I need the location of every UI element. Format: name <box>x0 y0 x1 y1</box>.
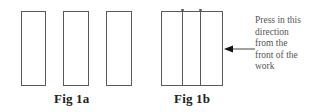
note-line-5: work <box>255 61 325 73</box>
fig1b-seam-1 <box>182 11 183 86</box>
note-line-4: front of the <box>255 50 325 62</box>
press-direction-note: Press in this direction from the front o… <box>255 15 325 73</box>
fig1a-panel-2 <box>63 11 89 86</box>
fig1b-seam-marker-1 <box>181 9 184 11</box>
fig1b-seam-2 <box>200 11 201 86</box>
note-line-3: from the <box>255 38 325 50</box>
note-line-2: direction <box>255 27 325 39</box>
fig1a-label: Fig 1a <box>54 91 90 107</box>
fig1b-panel-block <box>161 11 223 86</box>
note-line-1: Press in this <box>255 15 325 27</box>
fig1b-seam-marker-2 <box>199 9 202 11</box>
fig1a-panel-1 <box>21 11 46 86</box>
fig1b-label: Fig 1b <box>174 91 210 107</box>
fig1a-panel-3 <box>106 11 132 86</box>
